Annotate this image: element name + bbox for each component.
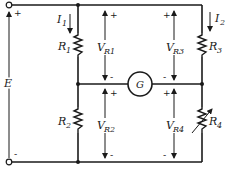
- vr2-minus: -: [110, 150, 113, 160]
- vr2-plus: +: [110, 88, 118, 98]
- source-label: E: [3, 77, 12, 90]
- vr3-subscript: R3: [172, 47, 184, 56]
- vr1-subscript: R1: [103, 47, 115, 56]
- wheatstone-bridge-diagram: + - E R 1 R 2 R 3 R 4 I 1 I 2: [0, 0, 227, 176]
- vr2-label: V R2: [97, 119, 115, 134]
- junction-dot: [76, 82, 80, 86]
- vr4-subscript: R4: [172, 125, 184, 134]
- junction-dot: [76, 3, 80, 7]
- current-i1-label: I 1: [56, 13, 67, 28]
- vr4-minus: -: [163, 150, 166, 160]
- vr3-minus: -: [163, 72, 166, 82]
- vr3-plus: +: [163, 10, 171, 20]
- r1-subscript: 1: [66, 46, 71, 55]
- source-plus-sign: +: [14, 8, 22, 18]
- r1-letter: R: [57, 40, 66, 53]
- resistor-r1-label: R 1: [57, 40, 71, 55]
- junction-dot: [200, 82, 204, 86]
- source-minus-sign: -: [14, 149, 17, 159]
- r3-letter: R: [208, 40, 217, 53]
- vr4-plus: +: [163, 88, 171, 98]
- resistor-r2-label: R 2: [57, 115, 71, 130]
- r3-subscript: 3: [217, 46, 222, 55]
- resistor-r4: [198, 107, 206, 133]
- vr1-plus: +: [110, 10, 118, 20]
- resistor-r2: [74, 107, 82, 133]
- vr2-subscript: R2: [103, 125, 115, 134]
- r4-letter: R: [208, 115, 217, 128]
- i1-subscript: 1: [62, 19, 67, 28]
- terminal-bottom: [6, 159, 12, 165]
- i2-subscript: 2: [219, 18, 225, 27]
- resistor-r3-label: R 3: [208, 40, 222, 55]
- vr3-label: V R3: [166, 41, 184, 56]
- vr1-label: V R1: [97, 41, 115, 56]
- terminal-top: [6, 2, 12, 8]
- resistor-r3: [198, 33, 206, 57]
- resistor-r4-label: R 4: [208, 115, 222, 130]
- current-i2-label: I 2: [214, 12, 225, 27]
- resistor-r1: [74, 33, 82, 57]
- vr1-minus: -: [110, 72, 113, 82]
- galvanometer-label: G: [136, 79, 144, 90]
- r4-subscript: 4: [216, 121, 222, 130]
- vr4-label: V R4: [166, 119, 184, 134]
- r2-subscript: 2: [65, 121, 71, 130]
- r2-letter: R: [57, 115, 66, 128]
- junction-dot: [76, 160, 80, 164]
